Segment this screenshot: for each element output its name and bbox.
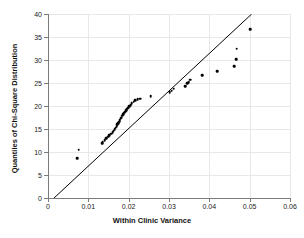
gridline-horizontal <box>48 152 290 153</box>
qq-plot-figure: 0510152025303540 00.010.020.030.040.050.… <box>0 0 304 238</box>
y-tick-mark <box>44 14 48 15</box>
plot-area <box>48 14 290 198</box>
x-tick-mark <box>169 198 170 202</box>
data-point <box>173 87 176 90</box>
y-tick-mark <box>44 37 48 38</box>
gridline-horizontal <box>48 14 290 15</box>
data-point <box>76 157 79 160</box>
y-tick-label: 0 <box>16 195 42 202</box>
data-point <box>189 78 192 81</box>
x-axis-title: Within Clinic Variance <box>0 216 304 225</box>
data-point <box>235 58 238 61</box>
y-tick-mark <box>44 175 48 176</box>
gridline-horizontal <box>48 83 290 84</box>
x-tick-label: 0.05 <box>230 203 270 210</box>
y-tick-label: 10 <box>16 149 42 156</box>
gridline-horizontal <box>48 37 290 38</box>
x-tick-label: 0.06 <box>270 203 304 210</box>
y-tick-mark <box>44 106 48 107</box>
y-tick-mark <box>44 129 48 130</box>
y-tick-label: 25 <box>16 80 42 87</box>
gridline-horizontal <box>48 129 290 130</box>
x-tick-label: 0.02 <box>109 203 149 210</box>
y-axis-title: Quantiles of Chi-Square Distribution <box>10 9 19 209</box>
data-point <box>235 47 238 50</box>
y-tick-label: 5 <box>16 172 42 179</box>
x-tick-label: 0 <box>28 203 68 210</box>
gridline-vertical <box>290 14 291 198</box>
gridline-horizontal <box>48 106 290 107</box>
y-axis-line <box>48 14 49 198</box>
data-point <box>201 74 204 77</box>
y-tick-mark <box>44 60 48 61</box>
data-point <box>249 28 252 31</box>
x-tick-mark <box>250 198 251 202</box>
data-point <box>184 85 187 88</box>
data-point <box>171 90 174 93</box>
x-tick-label: 0.03 <box>149 203 189 210</box>
x-tick-mark <box>209 198 210 202</box>
x-tick-mark <box>48 198 49 202</box>
data-point <box>77 148 80 151</box>
y-tick-mark <box>44 152 48 153</box>
x-tick-mark <box>88 198 89 202</box>
x-tick-mark <box>290 198 291 202</box>
y-tick-label: 40 <box>16 11 42 18</box>
data-point <box>139 97 142 100</box>
gridline-horizontal <box>48 60 290 61</box>
gridline-horizontal <box>48 175 290 176</box>
data-point <box>187 81 190 84</box>
data-point <box>233 65 236 68</box>
y-tick-mark <box>44 83 48 84</box>
data-point <box>150 95 153 98</box>
x-tick-label: 0.01 <box>68 203 108 210</box>
data-point <box>216 70 219 73</box>
y-tick-label: 30 <box>16 57 42 64</box>
x-tick-mark <box>129 198 130 202</box>
y-tick-label: 15 <box>16 126 42 133</box>
x-tick-label: 0.04 <box>189 203 229 210</box>
y-tick-label: 35 <box>16 34 42 41</box>
y-tick-label: 20 <box>16 103 42 110</box>
